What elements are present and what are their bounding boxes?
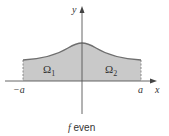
x-axis-arrow-icon <box>150 79 157 84</box>
y-axis-arrow-icon <box>80 6 85 13</box>
even-function-diagram: y x −a a Ω1 Ω2 f even <box>0 0 169 136</box>
caption: f even <box>68 122 95 133</box>
tick-label-a: a <box>138 84 143 95</box>
tick-label-neg-a: −a <box>13 84 25 95</box>
y-axis-label: y <box>71 4 77 15</box>
x-axis-label: x <box>154 84 160 95</box>
